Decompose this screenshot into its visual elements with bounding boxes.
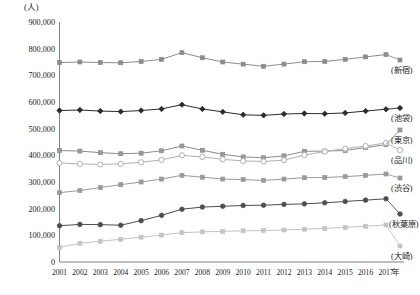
data-point-marker [302, 60, 306, 64]
x-axis-tick-label: 2007 [174, 268, 189, 277]
series-渋谷 [58, 172, 389, 195]
data-point-marker [398, 128, 402, 132]
y-axis-tick-label: 900,000 [28, 18, 55, 27]
x-axis-tick-label: 2012 [276, 268, 291, 277]
data-point-marker [261, 113, 266, 118]
data-point-marker [302, 227, 306, 231]
legend-label: (秋葉原) [389, 219, 419, 229]
data-point-marker [119, 183, 123, 187]
data-point-marker [139, 180, 143, 184]
data-point-marker [98, 108, 103, 113]
y-axis-unit-label: (人) [24, 2, 39, 12]
data-point-marker [322, 149, 327, 154]
data-point-marker [397, 105, 402, 110]
data-point-marker [262, 178, 266, 182]
data-point-marker [98, 61, 102, 65]
data-point-marker [241, 158, 246, 163]
data-point-marker [364, 224, 368, 228]
data-point-marker [180, 144, 184, 148]
data-point-marker [220, 157, 225, 162]
x-axis-tick-label: 2016 [358, 268, 373, 277]
data-point-marker [77, 161, 82, 166]
data-point-marker [139, 151, 143, 155]
data-point-marker [262, 229, 266, 233]
data-point-marker [200, 154, 205, 159]
data-point-marker [398, 244, 402, 248]
data-point-marker [179, 102, 184, 107]
data-point-marker [342, 110, 347, 115]
legend-label: (品川) [391, 156, 413, 165]
data-point-marker [139, 235, 143, 239]
y-axis-tick-label: 0 [51, 258, 55, 267]
data-point-marker [302, 111, 307, 116]
data-point-marker [180, 173, 184, 177]
data-point-marker [363, 198, 368, 203]
x-axis-tick-label: 2011 [256, 268, 271, 277]
line-chart: (人)900,000800,000700,000600,000500,00040… [0, 0, 420, 295]
data-point-marker [139, 218, 144, 223]
data-point-marker [282, 202, 287, 207]
data-point-marker [364, 55, 368, 59]
data-point-marker [322, 201, 327, 206]
data-point-marker [118, 109, 123, 114]
data-point-marker [118, 223, 123, 228]
y-axis-tick-label: 400,000 [28, 151, 55, 160]
data-point-marker [160, 149, 164, 153]
data-point-marker [118, 161, 123, 166]
data-point-marker [98, 222, 103, 227]
data-point-marker [98, 162, 103, 167]
data-point-marker [322, 111, 327, 116]
data-point-marker [221, 229, 225, 233]
data-point-marker [119, 61, 123, 65]
data-point-marker [343, 199, 348, 204]
series-秋葉原 [57, 197, 388, 229]
data-point-marker [343, 57, 347, 61]
data-point-marker [398, 176, 402, 180]
data-point-marker [78, 222, 83, 227]
data-point-marker [302, 176, 306, 180]
y-axis-tick-label: 300,000 [28, 178, 55, 187]
data-point-marker [363, 143, 368, 148]
data-point-marker [98, 239, 102, 243]
x-axis-tick-label: 2001 [52, 268, 67, 277]
data-point-marker [57, 223, 62, 228]
legend-label: (池袋) [391, 113, 413, 123]
y-axis-tick-label: 700,000 [28, 71, 55, 80]
data-point-marker [200, 148, 204, 152]
legend-entry-秋葉原: (秋葉原) [386, 199, 419, 229]
data-point-marker [200, 106, 205, 111]
data-point-marker [323, 175, 327, 179]
data-point-marker [78, 241, 82, 245]
data-point-marker [221, 152, 225, 156]
data-point-marker [281, 158, 286, 163]
x-axis-tick-label: 2013 [297, 268, 312, 277]
data-point-marker [241, 229, 245, 233]
series-池袋 [57, 102, 389, 118]
data-point-marker [57, 160, 62, 165]
series-line [60, 199, 387, 226]
data-point-marker [159, 213, 164, 218]
y-axis-tick-label: 100,000 [28, 231, 55, 240]
data-point-marker [58, 61, 62, 65]
legend-entry-東京: (東京) [386, 128, 413, 145]
legend-entry-渋谷: (渋谷) [386, 174, 413, 193]
legend-label: (渋谷) [391, 183, 413, 193]
data-point-marker [98, 151, 102, 155]
data-point-marker [364, 173, 368, 177]
data-point-marker [261, 159, 266, 164]
data-point-marker [398, 58, 402, 62]
x-axis-tick-label: 2015 [338, 268, 353, 277]
data-point-marker [343, 175, 347, 179]
data-point-marker [139, 59, 143, 63]
y-axis-tick-label: 200,000 [28, 205, 55, 214]
data-point-marker [160, 177, 164, 181]
data-point-marker [398, 212, 403, 217]
data-point-marker [261, 203, 266, 208]
x-axis-tick-label: 2008 [195, 268, 210, 277]
data-point-marker [343, 225, 347, 229]
data-point-marker [241, 62, 245, 66]
data-point-marker [220, 109, 225, 114]
data-point-marker [58, 149, 62, 153]
data-point-marker [58, 191, 62, 195]
data-point-marker [282, 228, 286, 232]
